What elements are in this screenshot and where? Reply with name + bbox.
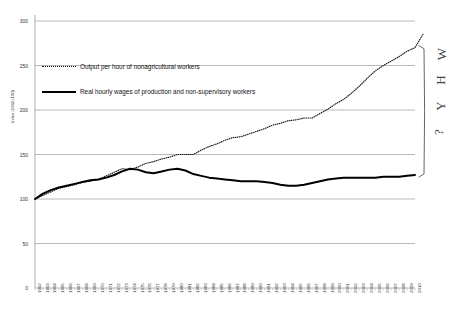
x-axis-tick-label: 1978 xyxy=(163,283,168,293)
y-axis-tick-label: 50 xyxy=(10,241,28,247)
x-axis-tick-label: 1986 xyxy=(227,283,232,293)
x-axis-tick-label: 1973 xyxy=(124,283,129,293)
x-axis-tick-label: 1968 xyxy=(84,283,89,293)
x-axis-tick-label: 1977 xyxy=(155,283,160,293)
x-axis-tick-label: 1990 xyxy=(258,283,263,293)
x-axis-tick-label: 2004 xyxy=(369,283,374,293)
x-axis-tick-label: 2002 xyxy=(353,283,358,293)
x-axis-tick-label: 1999 xyxy=(330,283,335,293)
x-axis-tick-label: 1996 xyxy=(306,283,311,293)
legend-item-label: Real hourly wages of production and non-… xyxy=(80,88,255,95)
x-axis-tick-label: 1963 xyxy=(45,283,50,293)
why-annotation-char: W xyxy=(434,48,450,60)
x-axis-tick-label: 2010 xyxy=(417,283,422,293)
x-axis-tick-label: 1969 xyxy=(92,283,97,293)
x-axis-tick-label: 1962 xyxy=(37,283,42,293)
y-axis-tick-label: 100 xyxy=(10,196,28,202)
x-axis-tick-label: 1965 xyxy=(60,283,65,293)
x-axis-tick-label: 2005 xyxy=(377,283,382,293)
x-axis-tick-label: 1967 xyxy=(76,283,81,293)
x-axis-tick-label: 1980 xyxy=(179,283,184,293)
y-axis-tick-label: 250 xyxy=(10,63,28,69)
x-axis-tick-label: 2006 xyxy=(385,283,390,293)
x-axis-tick-label: 1995 xyxy=(298,283,303,293)
x-axis-tick-label: 1987 xyxy=(235,283,240,293)
x-axis-tick-label: 1981 xyxy=(187,283,192,293)
why-annotation-char: ? xyxy=(431,129,447,135)
x-axis-tick-label: 1989 xyxy=(250,283,255,293)
dotted-line-swatch-icon xyxy=(42,66,76,67)
why-annotation-char: H xyxy=(433,75,449,84)
x-axis-tick-label: 1983 xyxy=(203,283,208,293)
x-axis-tick-label: 1975 xyxy=(140,283,145,293)
chart-plot-area xyxy=(0,0,468,319)
x-axis-tick-label: 1985 xyxy=(219,283,224,293)
x-axis-tick-label: 1997 xyxy=(314,283,319,293)
x-axis-tick-label: 1991 xyxy=(266,283,271,293)
x-axis-tick-label: 1976 xyxy=(147,283,152,293)
x-axis-tick-label: 2008 xyxy=(401,283,406,293)
x-axis-tick-label: 1982 xyxy=(195,283,200,293)
x-axis-tick-label: 1974 xyxy=(132,283,137,293)
x-axis-tick-label: 1971 xyxy=(108,283,113,293)
x-axis-tick-label: 2001 xyxy=(345,283,350,293)
x-axis-tick-label: 1994 xyxy=(290,283,295,293)
x-axis-tick-label: 1972 xyxy=(116,283,121,293)
x-axis-tick-label: 2007 xyxy=(393,283,398,293)
y-axis-tick-label: 150 xyxy=(10,152,28,158)
x-axis-tick-label: 2009 xyxy=(409,283,414,293)
solid-line-swatch-icon xyxy=(42,91,76,93)
x-axis-tick-label: 1993 xyxy=(282,283,287,293)
x-axis-tick-label: 1970 xyxy=(100,283,105,293)
x-axis-tick-label: 1988 xyxy=(242,283,247,293)
x-axis-tick-label: 1998 xyxy=(322,283,327,293)
y-axis-title: Index (1962=100) xyxy=(10,90,15,123)
y-axis-tick-label: 300 xyxy=(10,18,28,24)
x-axis-tick-label: 2003 xyxy=(361,283,366,293)
legend-item-label: Output per hour of nonagricultural worke… xyxy=(80,63,200,70)
x-axis-tick-label: 2000 xyxy=(337,283,342,293)
x-axis-tick-label: 1979 xyxy=(171,283,176,293)
y-axis-tick-label: 0 xyxy=(10,285,28,291)
x-axis-tick-label: 1992 xyxy=(274,283,279,293)
why-annotation-char: Y xyxy=(433,101,449,110)
x-axis-tick-label: 1984 xyxy=(211,283,216,293)
productivity-wage-gap-chart: 300250200150100500 Index (1962=100) 1962… xyxy=(0,0,468,319)
legend-item-real-hourly-wages: Real hourly wages of production and non-… xyxy=(42,88,255,95)
x-axis-tick-label: 1966 xyxy=(68,283,73,293)
legend-item-output-per-hour: Output per hour of nonagricultural worke… xyxy=(42,63,200,70)
x-axis-tick-label: 1964 xyxy=(52,283,57,293)
